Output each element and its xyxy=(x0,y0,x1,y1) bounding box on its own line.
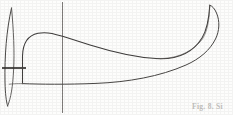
figure-caption: Fig. 8. Si xyxy=(192,102,233,111)
figure-container: Fig. 8. Si xyxy=(0,0,233,115)
figure-background xyxy=(0,0,233,115)
figure-line-drawing xyxy=(0,0,233,115)
